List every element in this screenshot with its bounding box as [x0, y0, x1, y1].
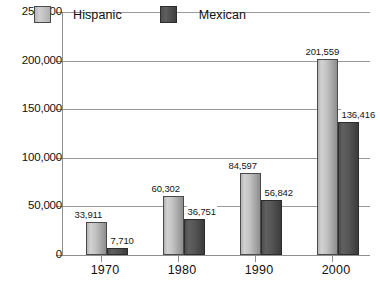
legend-item-mexican: Mexican [160, 6, 246, 23]
x-axis-tick [101, 256, 102, 262]
data-label-mexican-1980: 36,751 [187, 206, 217, 217]
bar-hispanic-1970 [86, 222, 107, 255]
bar-hispanic-2000 [317, 59, 338, 255]
legend-label-hispanic: Hispanic [73, 8, 122, 22]
y-axis-tick-label: 0 [2, 249, 62, 260]
x-axis-tick-label-2000: 2000 [306, 263, 366, 277]
data-label-hispanic-1980: 60,302 [151, 183, 181, 194]
legend-swatch-mexican-icon [160, 6, 177, 23]
bar-hispanic-1990 [240, 173, 261, 255]
data-label-mexican-1990: 56,842 [264, 187, 294, 198]
x-axis-tick [332, 256, 333, 262]
y-axis-tick-label: 200,000 [2, 55, 62, 66]
legend-label-mexican: Mexican [199, 8, 246, 22]
y-axis-tick-label: 150,000 [2, 103, 62, 114]
legend-swatch-hispanic-icon [34, 6, 51, 23]
bar-mexican-1990 [261, 200, 282, 255]
x-axis-tick-label-1990: 1990 [229, 263, 289, 277]
data-label-hispanic-2000: 201,559 [305, 46, 341, 57]
x-axis-tick [255, 256, 256, 262]
legend-item-hispanic: Hispanic [34, 6, 122, 23]
y-axis-tick-label: 50,000 [2, 200, 62, 211]
bar-mexican-2000 [338, 122, 359, 255]
data-label-mexican-1970: 7,710 [110, 235, 135, 246]
bar-mexican-1980 [184, 219, 205, 255]
gridline [62, 255, 370, 256]
data-label-hispanic-1990: 84,597 [228, 160, 258, 171]
data-label-hispanic-1970: 33,911 [74, 209, 104, 220]
x-axis-tick [178, 256, 179, 262]
bar-hispanic-1980 [163, 196, 184, 255]
chart-legend: Hispanic Mexican [34, 6, 284, 23]
y-axis-tick-label: 100,000 [2, 152, 62, 163]
bar-chart: 050,000100,000150,000200,000250,000 33,9… [0, 0, 380, 290]
data-label-mexican-2000: 136,416 [341, 109, 377, 120]
x-axis-tick-label-1980: 1980 [152, 263, 212, 277]
x-axis-tick-label-1970: 1970 [75, 263, 135, 277]
bar-mexican-1970 [107, 248, 128, 255]
